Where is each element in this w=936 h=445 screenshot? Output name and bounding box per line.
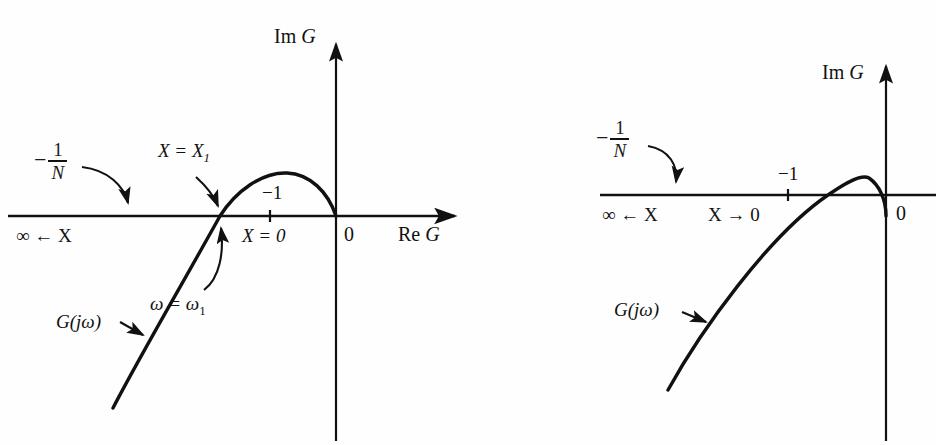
left-x-equals-x1-label: X = X1 bbox=[158, 141, 210, 165]
right-g-jomega-label: G(jω) bbox=[614, 300, 659, 319]
right-frac-denominator: N bbox=[611, 140, 630, 160]
right-frac-stack: 1 N bbox=[610, 118, 629, 160]
right-x-to-infinity-text: ∞ ← X bbox=[602, 204, 658, 225]
right-x-to-zero-label: X → 0 bbox=[708, 205, 760, 224]
right-frac-numerator: 1 bbox=[612, 118, 628, 138]
right-im-var: G bbox=[849, 61, 863, 83]
left-omega-sub: 1 bbox=[199, 303, 205, 318]
right-im-text: Im bbox=[822, 61, 844, 83]
left-g-jomega-text: G(jω) bbox=[56, 311, 101, 332]
left-omega-equals-omega1-label: ω = ω1 bbox=[150, 294, 206, 318]
left-x-equals-x1-lhs: X = X bbox=[158, 140, 204, 161]
right-frac-minus: − bbox=[596, 125, 608, 151]
left-minus-one-over-n-arrow bbox=[82, 167, 128, 203]
left-x-equals-zero-label: X = 0 bbox=[242, 226, 285, 245]
right-minus-one-over-n-label: − 1 N bbox=[596, 118, 629, 160]
right-imaginary-axis-label: Im G bbox=[822, 62, 864, 82]
left-im-var: G bbox=[301, 25, 315, 47]
right-minus-one-over-n-arrow bbox=[648, 146, 676, 182]
left-g-jomega-label: G(jω) bbox=[56, 312, 101, 331]
left-frac-stack: 1 N bbox=[48, 140, 67, 182]
left-re-var: G bbox=[425, 223, 439, 245]
figure-container: Im G Re G − 1 N ∞ ← X X = X1 −1 X = 0 ω … bbox=[0, 0, 936, 445]
left-re-text: Re bbox=[398, 223, 420, 245]
left-imaginary-axis-label: Im G bbox=[274, 26, 316, 46]
left-frac-numerator: 1 bbox=[50, 140, 66, 160]
left-im-text: Im bbox=[274, 25, 296, 47]
left-x-equals-zero-text: X = 0 bbox=[242, 225, 285, 246]
right-minus-one-text: −1 bbox=[778, 163, 798, 184]
right-g-jomega-curve bbox=[668, 177, 886, 390]
right-origin-label: 0 bbox=[896, 203, 906, 223]
left-frac-denominator: N bbox=[49, 162, 68, 182]
left-minus-one-tick-label: −1 bbox=[262, 183, 282, 202]
left-x-equals-x1-arrow bbox=[196, 177, 218, 206]
right-diagram-axes bbox=[600, 66, 936, 441]
left-frac-minus: − bbox=[34, 147, 46, 173]
diagram-svg bbox=[0, 0, 936, 445]
left-x-equals-x1-sub: 1 bbox=[204, 150, 210, 165]
right-origin-text: 0 bbox=[896, 202, 906, 224]
left-diagram-axes bbox=[8, 44, 455, 441]
left-minus-one-text: −1 bbox=[262, 182, 282, 203]
left-origin-text: 0 bbox=[344, 223, 354, 245]
left-g-jomega-curve bbox=[113, 173, 336, 408]
right-g-jomega-arrow bbox=[682, 312, 706, 322]
right-x-to-infinity-label: ∞ ← X bbox=[602, 205, 658, 224]
left-omega-lhs: ω = ω bbox=[150, 293, 199, 314]
left-x-to-infinity-text: ∞ ← X bbox=[16, 225, 72, 246]
left-origin-label: 0 bbox=[344, 224, 354, 244]
left-minus-one-over-n-label: − 1 N bbox=[34, 140, 67, 182]
right-x-to-zero-text: X → 0 bbox=[708, 204, 760, 225]
left-real-axis-label: Re G bbox=[398, 224, 440, 244]
left-x-to-infinity-label: ∞ ← X bbox=[16, 226, 72, 245]
left-g-jomega-arrow bbox=[120, 322, 143, 335]
right-g-jomega-text: G(jω) bbox=[614, 299, 659, 320]
right-minus-one-tick-label: −1 bbox=[778, 164, 798, 183]
